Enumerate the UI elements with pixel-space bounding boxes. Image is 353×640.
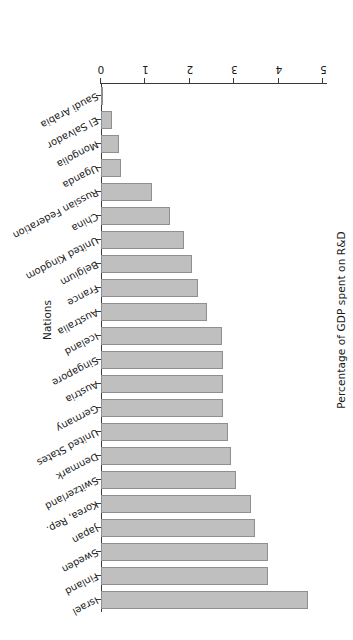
category-label: Israel (71, 595, 100, 617)
category-label: China (70, 211, 100, 233)
bar (101, 519, 255, 536)
value-tick-label: 5 (311, 64, 337, 76)
value-tick-label: 1 (133, 64, 159, 76)
value-tick-label: 4 (266, 64, 292, 76)
value-axis-title: Percentage of GDP spent on R&D (335, 0, 353, 640)
bar (101, 159, 121, 176)
bar (101, 231, 184, 248)
bar (101, 399, 223, 416)
bar (101, 303, 207, 320)
bar (101, 255, 192, 272)
bar (101, 567, 268, 584)
plot-area: 012345 (101, 86, 327, 612)
bar (101, 111, 112, 128)
category-label: Uganda (61, 163, 100, 190)
bar (101, 183, 152, 200)
value-tick-rail (101, 83, 327, 84)
bar-chart-figure: Percentage of GDP spent on R&D Nations 0… (0, 0, 353, 640)
value-tick-label: 2 (177, 64, 203, 76)
value-tick (323, 78, 324, 84)
category-label: France (66, 283, 100, 307)
category-axis-title: Nations (41, 0, 57, 640)
figure-inner: Percentage of GDP spent on R&D Nations 0… (0, 0, 353, 640)
bar (101, 591, 308, 608)
bar (101, 327, 222, 344)
value-tick-label: 3 (222, 64, 248, 76)
bar (101, 447, 231, 464)
bar (101, 471, 236, 488)
bar (101, 375, 223, 392)
category-label: Japan (70, 523, 99, 545)
value-tick-label: 0 (88, 64, 114, 76)
category-label: Austria (64, 379, 100, 404)
bar (101, 135, 119, 152)
bar (101, 351, 223, 368)
value-tick (145, 78, 146, 84)
bar (101, 423, 228, 440)
bar (101, 543, 268, 560)
category-label: Finland (63, 571, 99, 597)
bar (101, 207, 170, 224)
bar (101, 495, 251, 512)
bar (101, 279, 198, 296)
value-tick (189, 78, 190, 84)
value-tick (100, 78, 101, 84)
category-label: Iceland (63, 331, 100, 357)
bar (101, 87, 103, 104)
value-tick (234, 78, 235, 84)
value-tick (278, 78, 279, 84)
